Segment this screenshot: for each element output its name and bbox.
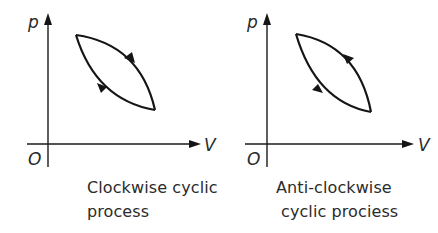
- v-axis-label: V: [204, 135, 217, 155]
- clockwise-pv-diagram: p V O: [27, 12, 217, 169]
- p-axis-arrow-icon: [263, 13, 271, 25]
- clockwise-caption: Clockwise cyclic process: [87, 176, 218, 224]
- v-axis-arrow-icon: [189, 140, 201, 148]
- v-axis-label: V: [418, 135, 431, 155]
- p-axis-label: p: [246, 12, 258, 32]
- caption-line: Anti-clockwise: [276, 176, 398, 200]
- origin-label: O: [247, 149, 260, 169]
- lower-arc: [296, 34, 371, 112]
- origin-label: O: [28, 149, 41, 169]
- direction-arrow-icon: [343, 54, 354, 64]
- p-axis-label: p: [27, 12, 39, 32]
- anticlockwise-caption: Anti-clockwise cyclic prociess: [276, 176, 398, 224]
- v-axis-arrow-icon: [402, 140, 414, 148]
- lower-arc: [76, 35, 155, 110]
- caption-line: process: [87, 200, 218, 224]
- p-axis-arrow-icon: [44, 13, 52, 25]
- caption-line: Clockwise cyclic: [87, 176, 218, 200]
- upper-arc: [76, 35, 155, 110]
- upper-arc: [296, 34, 371, 112]
- caption-line: cyclic prociess: [276, 200, 398, 224]
- anticlockwise-pv-diagram: p V O: [245, 12, 431, 169]
